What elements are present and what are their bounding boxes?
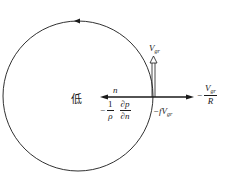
normal-direction-label: n [113, 86, 118, 95]
pressure-gradient-force-label: − 1 ρ ∂p ∂n [100, 100, 131, 121]
centrifugal-force-label: − Vgr R [197, 84, 217, 106]
pressure-gradient-arrow-icon [100, 95, 108, 100]
pgf-coef-den: ρ [108, 111, 112, 121]
centrifugal-arrow-icon [186, 95, 194, 100]
velocity-arrow-head-icon [150, 56, 157, 63]
coriolis-text: −fV [153, 106, 167, 116]
coriolis-force-label: −fVgr [153, 107, 172, 117]
cf-den: R [208, 96, 214, 106]
pgf-deriv-num: ∂p [120, 100, 131, 111]
pgf-coefficient: 1 ρ [107, 100, 114, 121]
gradient-wind-velocity-label: Vgr [149, 44, 160, 54]
pgf-derivative: ∂p ∂n [120, 100, 131, 121]
cf-num: Vgr [204, 84, 217, 96]
low-pressure-label: 低 [71, 94, 82, 105]
pgf-coef-num: 1 [107, 100, 114, 111]
vgr-sub: gr [155, 48, 160, 54]
cf-fraction: Vgr R [204, 84, 217, 106]
cf-num-sub: gr [211, 88, 216, 94]
pgf-deriv-den: ∂n [121, 111, 130, 121]
circulation-arrow-icon [74, 19, 80, 24]
pgf-sign: − [100, 106, 105, 115]
coriolis-sub: gr [167, 111, 172, 117]
cf-sign: − [197, 91, 202, 100]
